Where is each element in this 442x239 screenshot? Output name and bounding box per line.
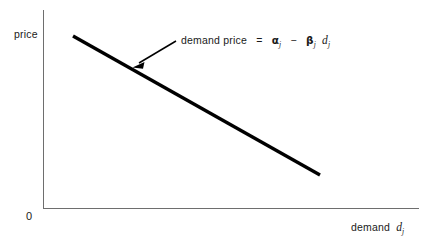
- demand-price-figure: price 0 demanddj demand price = αj − βjd…: [0, 0, 442, 239]
- annotation-d-sub: j: [328, 40, 330, 49]
- annotation-lead-text: demand price: [181, 34, 247, 46]
- x-axis-label-text: demand: [351, 221, 390, 233]
- annotation-arrow: [133, 41, 177, 69]
- origin-label: 0: [26, 211, 32, 222]
- annotation-alpha-sub: j: [279, 40, 281, 49]
- annotation-equals: =: [256, 34, 262, 46]
- annotation-alpha: α: [272, 34, 279, 46]
- annotation-beta-sub: j: [314, 40, 316, 49]
- annotation-d: d: [322, 34, 328, 46]
- x-axis-label: demanddj: [351, 222, 404, 234]
- annotation-minus: −: [290, 34, 296, 46]
- y-axis-label: price: [14, 29, 38, 40]
- demand-price-annotation: demand price = αj − βjdj: [181, 35, 330, 47]
- annotation-beta: β: [306, 34, 314, 46]
- demand-curve-line: [73, 36, 320, 175]
